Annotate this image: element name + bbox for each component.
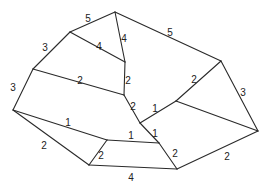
edge-weight-label: 5: [167, 27, 173, 38]
edge-weight-labels: 55443322212311122422: [10, 13, 246, 183]
edge-weight-label: 1: [65, 117, 71, 128]
edge-D-K: [13, 110, 89, 165]
edge-weight-label: 2: [191, 74, 197, 85]
edge-weight-label: 3: [42, 42, 48, 53]
edge-C-B: [33, 32, 70, 69]
edge-weight-label: 2: [41, 140, 47, 151]
edge-weight-label: 3: [10, 82, 16, 93]
edge-weight-label: 1: [128, 130, 134, 141]
edge-N-J: [177, 131, 258, 169]
edge-weight-label: 2: [98, 150, 104, 161]
edge-G-H: [140, 101, 176, 123]
edge-I-H: [176, 61, 221, 101]
edge-weight-label: 2: [130, 101, 136, 112]
edge-weight-label: 3: [240, 87, 246, 98]
edge-H-J: [176, 101, 258, 131]
edge-weight-label: 4: [96, 41, 102, 52]
edge-weight-label: 4: [128, 172, 134, 183]
edge-weight-label: 5: [85, 13, 91, 24]
graph-edges: [13, 12, 258, 169]
edge-weight-label: 2: [77, 75, 83, 86]
edge-D-C: [13, 69, 33, 110]
edge-B-A: [70, 12, 115, 32]
edge-weight-label: 1: [152, 128, 158, 139]
edge-weight-label: 1: [152, 103, 158, 114]
edge-D-L: [13, 110, 107, 140]
edge-weight-label: 4: [121, 33, 127, 44]
edge-weight-label: 2: [125, 75, 131, 86]
edge-K-N: [89, 165, 177, 169]
edge-weight-label: 2: [224, 151, 230, 162]
graph-diagram: 55443322212311122422: [0, 0, 270, 186]
edge-weight-label: 2: [172, 148, 178, 159]
